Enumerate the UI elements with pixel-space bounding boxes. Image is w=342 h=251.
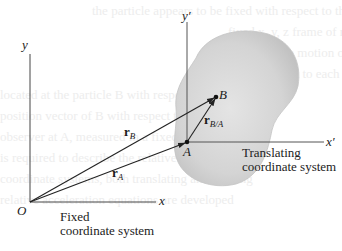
point-B-label: B bbox=[219, 87, 227, 103]
translating-frame-caption: Translating coordinate system bbox=[242, 146, 336, 174]
point-A-label: A bbox=[183, 144, 191, 160]
fixed-frame-caption: Fixed coordinate system bbox=[60, 210, 154, 238]
fixed-y-axis-label: y bbox=[22, 37, 28, 53]
vector-rB-label: rB bbox=[124, 124, 135, 140]
origin-O-label: O bbox=[17, 203, 26, 219]
vector-rA-label: rA bbox=[112, 165, 123, 181]
vector-rBA-label: rB/A bbox=[204, 112, 223, 128]
diagram-graphics bbox=[0, 0, 342, 251]
relative-motion-diagram: the particle appears to be fixed with re… bbox=[0, 0, 342, 251]
point-B-dot bbox=[214, 95, 219, 100]
translating-y-axis-label: y′ bbox=[182, 8, 191, 24]
fixed-x-axis-label: x bbox=[159, 193, 165, 209]
